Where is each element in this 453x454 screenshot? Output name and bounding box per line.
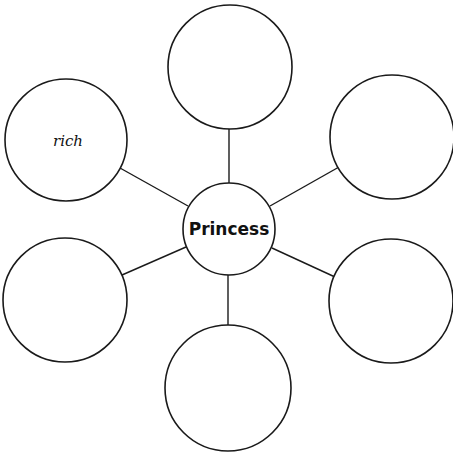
node-bottom-left[interactable] bbox=[3, 238, 127, 362]
edge-top-left bbox=[120, 168, 188, 206]
node-top-left[interactable]: rich bbox=[5, 79, 127, 201]
edge-bottom-right bbox=[272, 248, 335, 277]
edge-bottom-left bbox=[122, 247, 186, 275]
node-top-right[interactable] bbox=[330, 75, 453, 199]
node-bottom[interactable] bbox=[165, 325, 291, 451]
center-node-label: Princess bbox=[189, 219, 270, 239]
node-bottom-right[interactable] bbox=[329, 239, 453, 363]
bubble-map-diagram: rich Princess bbox=[0, 0, 453, 454]
center-node[interactable]: Princess bbox=[183, 183, 275, 275]
edge-top-right bbox=[270, 167, 339, 206]
node-top-left-label: rich bbox=[53, 132, 83, 150]
node-top[interactable] bbox=[168, 5, 292, 129]
